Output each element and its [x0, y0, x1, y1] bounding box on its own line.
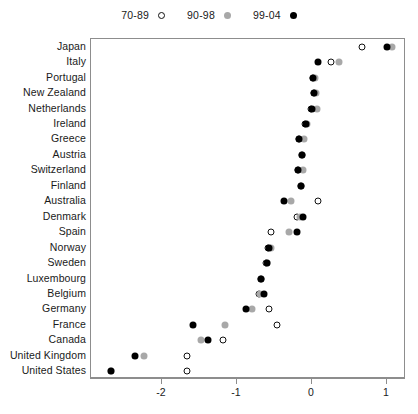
chart-legend: 70-8990-9899-04 [0, 4, 418, 26]
y-axis-label: Canada [49, 333, 86, 345]
data-point [309, 74, 316, 81]
x-tick-label: -1 [231, 386, 240, 398]
data-point [267, 229, 274, 236]
y-axis-label: United States [22, 364, 86, 376]
data-point [261, 291, 268, 298]
dot-plot-chart: 70-8990-9899-04 JapanItalyPortugalNew Ze… [0, 0, 418, 414]
legend-marker-icon [224, 12, 231, 19]
data-point [336, 59, 343, 66]
y-axis-label: Spain [59, 225, 86, 237]
data-point [204, 337, 211, 344]
x-tick [161, 378, 162, 384]
y-axis-label: Finland [51, 179, 86, 191]
data-point [296, 136, 303, 143]
plot-area [90, 38, 405, 378]
data-point [266, 306, 273, 313]
legend-label: 99-04 [253, 9, 281, 21]
y-axis-label: Ireland [53, 117, 86, 129]
x-tick [311, 378, 312, 384]
legend-marker-icon [290, 12, 297, 19]
data-point [222, 321, 229, 328]
y-axis-label: Portugal [46, 71, 86, 83]
data-point [297, 182, 304, 189]
data-point [273, 321, 280, 328]
x-tick [236, 378, 237, 384]
legend-label: 90-98 [187, 9, 215, 21]
x-tick-label: 1 [383, 386, 389, 398]
y-axis-label: Japan [57, 40, 86, 52]
legend-item-70-89: 70-89 [121, 9, 165, 21]
y-axis-label: France [53, 318, 86, 330]
y-axis-label: Germany [42, 302, 86, 314]
data-point [315, 198, 322, 205]
y-axis-label: Austria [53, 148, 86, 160]
y-axis-label: Switzerland [31, 163, 86, 175]
data-point [294, 229, 301, 236]
y-axis-label: Belgium [47, 287, 86, 299]
data-point [132, 352, 139, 359]
data-point [285, 229, 292, 236]
data-point [315, 59, 322, 66]
y-axis-label: Norway [50, 241, 86, 253]
data-point [141, 352, 148, 359]
data-point [249, 306, 256, 313]
data-point [288, 198, 295, 205]
y-axis-label: Greece [51, 132, 86, 144]
data-point [359, 43, 366, 50]
data-point [183, 352, 190, 359]
data-point [303, 121, 310, 128]
data-point [183, 368, 190, 375]
data-point [189, 321, 196, 328]
data-point [264, 260, 271, 267]
data-point [384, 43, 391, 50]
y-axis-label: Netherlands [28, 102, 86, 114]
x-tick-label: -2 [156, 386, 165, 398]
x-axis-line [90, 378, 405, 379]
legend-marker-icon [158, 12, 165, 19]
data-point [243, 306, 250, 313]
x-tick-label: 0 [308, 386, 314, 398]
x-tick [386, 378, 387, 384]
data-point [108, 368, 115, 375]
y-axis-label: Denmark [43, 210, 86, 222]
data-point [311, 90, 318, 97]
data-point [281, 198, 288, 205]
y-axis-category-labels: JapanItalyPortugalNew ZealandNetherlands… [0, 38, 86, 378]
data-point [299, 151, 306, 158]
data-point [258, 275, 265, 282]
data-point [309, 105, 316, 112]
data-point [219, 337, 226, 344]
legend-item-99-04: 99-04 [253, 9, 297, 21]
data-point [327, 59, 334, 66]
data-point [300, 213, 307, 220]
data-point [266, 244, 273, 251]
y-axis-label: United Kingdom [10, 349, 86, 361]
y-axis-label: Italy [66, 55, 86, 67]
y-axis-label: New Zealand [23, 86, 86, 98]
data-point [294, 167, 301, 174]
y-axis-label: Sweden [47, 256, 86, 268]
legend-label: 70-89 [121, 9, 149, 21]
y-axis-label: Australia [44, 194, 86, 206]
y-axis-label: Luxembourg [27, 272, 86, 284]
legend-item-90-98: 90-98 [187, 9, 231, 21]
